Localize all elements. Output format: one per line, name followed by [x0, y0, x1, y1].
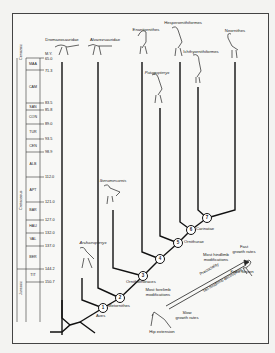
taxon-ichthyornithiformes: Ichthyornithiformes [183, 50, 218, 55]
era-label-jurassic: Jurassic [19, 281, 23, 295]
node-5: 5 [173, 238, 183, 248]
tick-label: 112.0 [45, 175, 54, 179]
tick-label: 71.3 [45, 69, 52, 73]
stage-label: TUR [29, 130, 36, 134]
stage-label: TIT [30, 273, 35, 277]
annotation-slow-growth: Slow growth rates [175, 311, 198, 320]
tick-label: 127.0 [45, 218, 55, 222]
annotation-hip-extension: Hip extension [149, 330, 174, 335]
node-6: 6 [186, 225, 196, 235]
tick-label: 121.0 [45, 200, 55, 204]
taxon-iberomesornis: Iberomesornis [100, 179, 127, 184]
node-label-carinatae: Carinatae [196, 227, 214, 232]
node-2: 2 [115, 293, 125, 303]
branches [50, 62, 235, 335]
annotation-most-hindlimb: Most hindlimb modifications [203, 253, 229, 262]
stage-label: CEN [29, 144, 37, 148]
tick-label: 89.0 [45, 122, 52, 126]
tick-label: 65.0 [45, 57, 52, 61]
timescale-unit: M.Y. [45, 52, 52, 56]
era-label-cenozoic: Cenozoic [19, 44, 23, 60]
taxon-patagopteryx: Patagopteryx [145, 71, 170, 76]
node-7: 7 [202, 213, 212, 223]
tick-label: 83.5 [45, 101, 52, 105]
tick-label: 98.9 [45, 150, 52, 154]
annotation-fast-growth: Fast growth rates [232, 245, 255, 254]
taxon-archaeopteryx: Archaeopteryx [80, 241, 107, 246]
tick-label: 144.2 [45, 267, 55, 271]
stage-label: HAU [29, 224, 37, 228]
taxon-neornithes: Neornithes [225, 29, 245, 34]
node-label-ornithothoraces: Ornithothoraces [126, 280, 156, 285]
node-4: 4 [155, 254, 165, 264]
node-1: 1 [98, 303, 108, 313]
taxon-dromaeosauridae: Dromaeosauridae [45, 38, 78, 43]
taxon-enantiornithes: Enantiornithes [133, 28, 160, 33]
era-label-cretaceous: Cretaceous [19, 191, 23, 210]
tick-label: 150.7 [45, 280, 55, 284]
tick-label: 93.5 [45, 137, 52, 141]
annotation-most-forelimb: Most forelimb modifications [145, 288, 170, 297]
stage-label: APT [30, 188, 37, 192]
node-label-metornithes: Metornithes [108, 304, 130, 309]
node-label-aves: Aves [96, 314, 105, 319]
taxon-alvarezsauridae: Alvarezsauridae [90, 38, 120, 43]
stage-label: SAN [29, 105, 36, 109]
stage-label: BAR [29, 208, 36, 212]
stage-label: CON [29, 115, 37, 119]
node-label-ornithurae: Ornithurae [184, 240, 204, 245]
phylogeny-tree [0, 0, 275, 353]
stage-label: VAL [30, 237, 37, 241]
tick-label: 85.8 [45, 108, 52, 112]
tick-label: 137.0 [45, 244, 55, 248]
tick-label: 132.0 [45, 231, 55, 235]
stage-label: CAM [29, 85, 37, 89]
stage-label: ALB [30, 162, 37, 166]
taxon-hesperornithiformes: Hesperornithiformes [164, 21, 202, 26]
annotation-knee-flexion: Knee flexion [230, 270, 253, 275]
stage-label: BER [29, 255, 36, 259]
stage-label: MAA [29, 62, 37, 66]
